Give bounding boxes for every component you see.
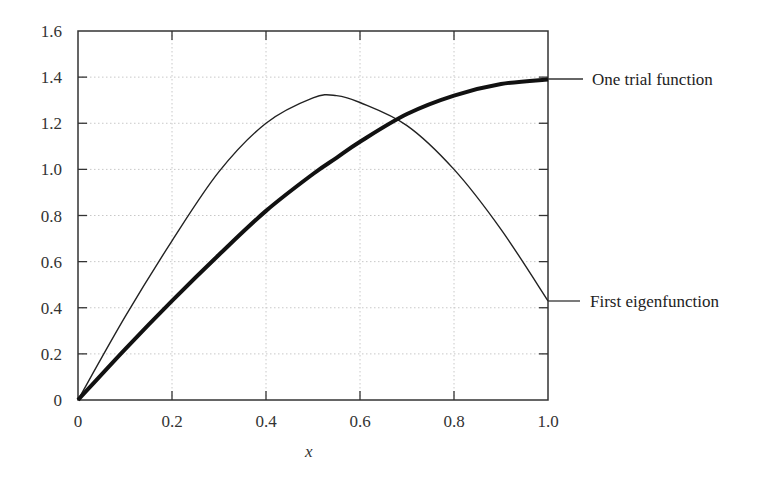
y-tick-label: 1.2 [41,114,62,133]
eigenfunction-label: First eigenfunction [590,292,719,311]
x-axis-title: x [304,442,313,461]
y-tick-label: 1.6 [41,22,62,41]
x-tick-label: 0.6 [349,412,370,431]
x-tick-label: 0.2 [161,412,182,431]
y-tick-label: 1.0 [41,160,62,179]
first-eigenfunction-curve [78,95,548,400]
axis-ticks [78,31,548,400]
x-tick-label: 0.4 [255,412,277,431]
y-tick-labels: 00.20.40.60.81.01.21.41.6 [41,22,63,410]
x-tick-label: 0 [74,412,83,431]
x-tick-labels: 00.20.40.60.81.0 [74,412,559,431]
y-tick-label: 0.2 [41,345,62,364]
y-tick-label: 0.8 [41,207,62,226]
y-tick-label: 1.4 [41,68,63,87]
y-tick-label: 0.6 [41,253,62,272]
y-tick-label: 0.4 [41,299,63,318]
trial-function-label: One trial function [592,70,713,89]
trial-function-curve [78,79,548,400]
grid-lines [78,31,548,400]
x-tick-label: 0.8 [443,412,464,431]
x-tick-label: 1.0 [537,412,558,431]
y-tick-label: 0 [54,391,63,410]
line-chart: 00.20.40.60.81.0 00.20.40.60.81.01.21.41… [0,0,774,481]
plot-frame [78,31,548,400]
